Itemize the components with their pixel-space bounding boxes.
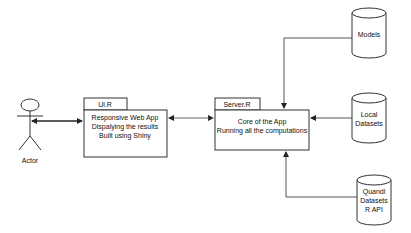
datastore-local-datasets — [352, 93, 386, 143]
actor-figure — [17, 99, 43, 150]
datastore-local-label-2: Datasets — [355, 120, 383, 127]
quandl-connector — [286, 152, 357, 197]
ui-line-3: Built using Shiny — [99, 132, 151, 140]
datastore-quandl-label-3: R API — [365, 206, 383, 213]
datastore-models-label: Models — [358, 31, 381, 38]
server-tab-label: Server.R — [223, 101, 250, 108]
models-connector — [284, 38, 352, 108]
server-line-2: Running all the computations — [217, 127, 308, 135]
datastore-quandl-label-1: Quandl — [363, 188, 386, 196]
actor-label: Actor — [22, 157, 39, 164]
datastore-quandl-label-2: Datasets — [360, 197, 388, 204]
ui-line-1: Responsive Web App — [92, 114, 159, 122]
datastore-local-label-1: Local — [361, 111, 378, 118]
ui-tab-label: Ul.R — [98, 101, 112, 108]
ui-line-2: Dispalying the results — [92, 123, 159, 131]
server-line-1: Core of the App — [238, 118, 287, 126]
architecture-diagram: Actor Ul.R Responsive Web App Dispalying… — [0, 0, 411, 233]
